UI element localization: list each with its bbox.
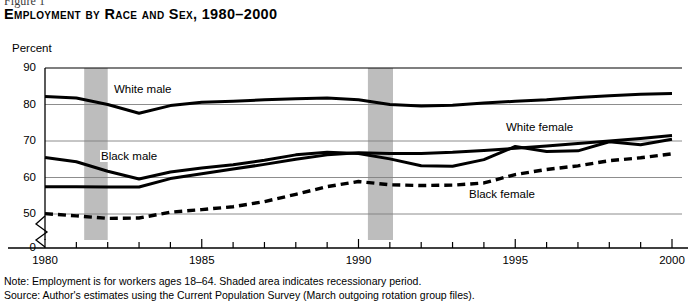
series-label-white-male: White male [113,83,173,95]
y-tick-label-90: 90 [10,62,36,73]
source-line: Source: Author's estimates using the Cur… [4,289,475,303]
y-tick-label-70: 70 [10,135,36,146]
x-tick-label-1980: 1980 [32,254,58,266]
x-tick-label-1985: 1985 [189,254,215,266]
series-label-black-female: Black female [468,188,536,200]
y-tick-label-80: 80 [10,99,36,110]
y-tick-label-60: 60 [10,172,36,183]
y-tick-label-0: 0 [10,242,36,253]
series-line-white-male [45,94,672,114]
y-tick-label-50: 50 [10,208,36,219]
series-label-black-male: Black male [100,150,158,162]
series-label-white-female: White female [505,121,574,133]
x-tick-label-2000: 2000 [659,254,685,266]
x-tick-label-1990: 1990 [346,254,372,266]
note-line: Note: Employment is for workers ages 18–… [4,275,475,289]
x-tick-label-1995: 1995 [502,254,528,266]
footnotes: Note: Employment is for workers ages 18–… [4,275,475,302]
y-axis-tick-labels: 90807060500 [8,0,36,260]
